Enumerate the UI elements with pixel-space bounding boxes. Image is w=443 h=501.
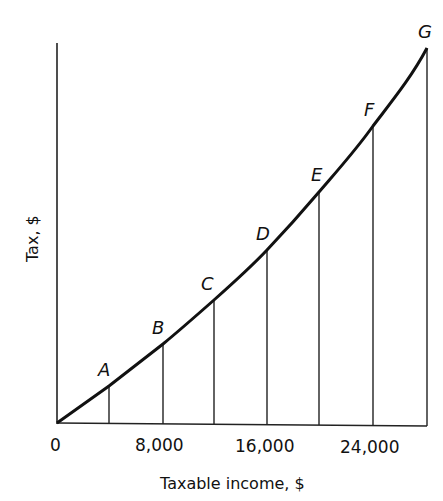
point-label-f: F xyxy=(364,99,375,120)
tax-curve-chart: A B C D E F G 0 8,000 16,000 24,000 Taxa… xyxy=(0,0,443,501)
point-label-d: D xyxy=(256,223,270,244)
x-tick-24000: 24,000 xyxy=(340,437,399,457)
point-label-e: E xyxy=(311,164,323,185)
y-axis-title: Tax, $ xyxy=(23,215,42,263)
point-label-c: C xyxy=(201,273,214,294)
x-axis-title: Taxable income, $ xyxy=(159,474,305,493)
x-tick-8000: 8,000 xyxy=(135,435,184,455)
x-axis xyxy=(57,423,427,426)
point-label-g: G xyxy=(418,21,432,42)
x-tick-0: 0 xyxy=(50,435,61,455)
point-label-b: B xyxy=(152,317,164,338)
point-label-a: A xyxy=(97,359,110,380)
x-tick-16000: 16,000 xyxy=(235,436,294,456)
